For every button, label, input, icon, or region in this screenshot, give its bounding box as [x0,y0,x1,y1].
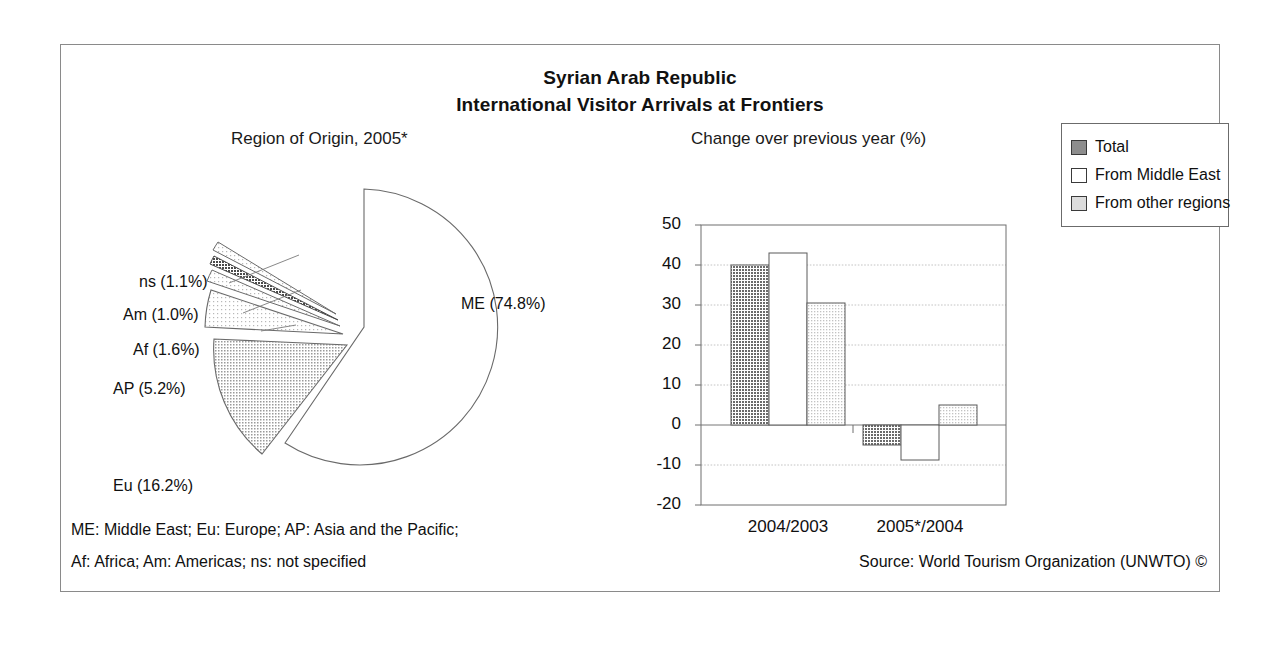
pie-chart: ns (1.1%) Am (1.0%) Af (1.6%) AP (5.2%) … [61,155,641,495]
pie-chart-svg [61,155,641,495]
legend-label-total: Total [1095,138,1129,156]
ytick-label-10: 10 [635,374,681,394]
ytick-label-50: 50 [635,214,681,234]
page-subtitle: International Visitor Arrivals at Fronti… [61,91,1219,119]
pie-label-me: ME (74.8%) [461,295,545,313]
ytick-label-minus20: -20 [635,494,681,514]
bar-middle-east-2005 [901,425,939,460]
ytick-label-0: 0 [635,414,681,434]
bar-total-2004 [731,265,769,425]
legend-item-middle-east: From Middle East [1071,161,1218,189]
legend-swatch-total [1071,140,1087,155]
pie-label-am: Am (1.0%) [123,306,199,324]
pie-chart-subtitle: Region of Origin, 2005* [231,129,408,149]
source-attribution: Source: World Tourism Organization (UNWT… [859,553,1207,571]
ytick-label-30: 30 [635,294,681,314]
xtick-label-2004-2003: 2004/2003 [713,517,863,537]
chart-title-block: Syrian Arab Republic International Visit… [61,65,1219,119]
legend-swatch-other-regions [1071,196,1087,211]
legend-label-other-regions: From other regions [1095,194,1230,212]
bar-total-2005 [863,425,901,445]
legend-swatch-middle-east [1071,168,1087,183]
bar-middle-east-2004 [769,253,807,425]
bar-other-regions-2005 [939,405,977,425]
footnote-abbreviations-line2: Af: Africa; Am: Americas; ns: not specif… [71,553,366,571]
bar-chart-subtitle: Change over previous year (%) [691,129,926,149]
footnote-abbreviations-line1: ME: Middle East; Eu: Europe; AP: Asia an… [71,521,459,539]
bar-other-regions-2004 [807,303,845,425]
ytick-label-40: 40 [635,254,681,274]
bar-chart-y-ticks [695,225,701,505]
pie-label-eu: Eu (16.2%) [113,477,193,495]
bar-chart-legend: Total From Middle East From other region… [1061,123,1229,227]
page-title: Syrian Arab Republic [61,65,1219,91]
legend-item-total: Total [1071,133,1218,161]
ytick-label-minus10: -10 [635,454,681,474]
ytick-label-20: 20 [635,334,681,354]
figure-frame: Syrian Arab Republic International Visit… [60,44,1220,592]
pie-label-ns: ns (1.1%) [139,273,207,291]
pie-label-af: Af (1.6%) [133,341,200,359]
legend-item-other-regions: From other regions [1071,189,1218,217]
xtick-label-2005-2004: 2005*/2004 [845,517,995,537]
pie-label-ap: AP (5.2%) [113,380,186,398]
legend-label-middle-east: From Middle East [1095,166,1220,184]
